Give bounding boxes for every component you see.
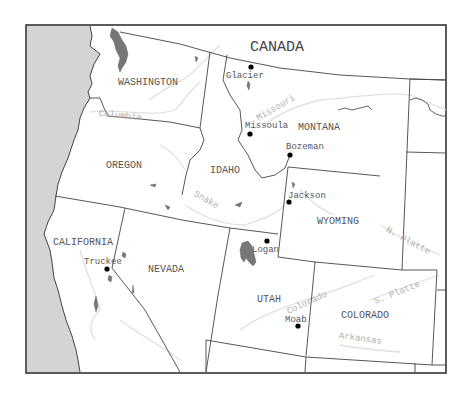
city-dot-icon <box>104 266 109 271</box>
city-label: Logan <box>252 245 279 255</box>
city-label: Missoula <box>245 121 289 131</box>
state-label-oregon: OREGON <box>106 160 142 171</box>
city-dot-icon <box>248 64 253 69</box>
state-label-utah: UTAH <box>257 294 281 305</box>
city-label: Moab <box>285 315 307 325</box>
state-label-montana: MONTANA <box>298 122 340 133</box>
western-us-map: CANADA WASHINGTONOREGONIDAHOMONTANAWYOMI… <box>0 0 473 399</box>
state-label-colorado: COLORADO <box>341 310 389 321</box>
city-dot-icon <box>247 131 252 136</box>
state-label-idaho: IDAHO <box>210 165 240 176</box>
state-label-wyoming: WYOMING <box>317 216 359 227</box>
state-label-nevada: NEVADA <box>148 264 184 275</box>
city-label: Bozeman <box>286 142 324 152</box>
city-label: Glacier <box>226 71 264 81</box>
city-label: Truckee <box>84 257 122 267</box>
country-label-canada: CANADA <box>250 39 304 56</box>
state-label-washington: WASHINGTON <box>118 77 178 88</box>
state-label-california: CALIFORNIA <box>53 237 113 248</box>
city-label: Jackson <box>288 191 326 201</box>
city-dot-icon <box>287 152 292 157</box>
city-dot-icon <box>264 238 269 243</box>
